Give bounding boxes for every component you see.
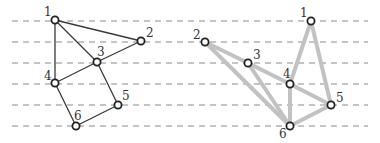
right-node-1: 1 bbox=[300, 6, 315, 25]
right-edge-4-1 bbox=[290, 21, 311, 84]
node-circle-icon bbox=[327, 101, 334, 108]
node-circle-icon bbox=[51, 16, 58, 23]
node-circle-icon bbox=[114, 101, 121, 108]
node-label: 3 bbox=[97, 45, 105, 59]
node-label: 1 bbox=[44, 5, 52, 19]
node-label: 6 bbox=[279, 127, 287, 141]
left-graph-nodes: 123456 bbox=[44, 5, 154, 130]
node-label: 6 bbox=[74, 109, 82, 123]
node-circle-icon bbox=[307, 17, 314, 24]
node-label: 4 bbox=[283, 67, 291, 81]
node-circle-icon bbox=[137, 37, 144, 44]
graph-diagram: 123456 123456 bbox=[0, 0, 380, 143]
node-label: 2 bbox=[146, 26, 154, 40]
node-circle-icon bbox=[93, 58, 100, 65]
node-label: 2 bbox=[193, 28, 201, 42]
left-edge-1-3 bbox=[55, 20, 97, 62]
right-node-2: 2 bbox=[193, 28, 209, 46]
right-edge-5-6 bbox=[290, 105, 331, 126]
node-label: 3 bbox=[253, 48, 261, 62]
node-circle-icon bbox=[286, 80, 293, 87]
left-edge-5-6 bbox=[76, 105, 118, 126]
node-circle-icon bbox=[51, 79, 58, 86]
node-label: 5 bbox=[122, 89, 130, 103]
right-edge-2-3 bbox=[205, 42, 248, 63]
left-graph-edges bbox=[55, 20, 141, 126]
left-edge-3-4 bbox=[55, 62, 97, 83]
node-circle-icon bbox=[201, 38, 208, 45]
node-label: 1 bbox=[300, 6, 308, 20]
node-label: 5 bbox=[336, 91, 344, 105]
node-circle-icon bbox=[244, 59, 251, 66]
left-node-6: 6 bbox=[72, 109, 81, 130]
right-graph-edges bbox=[205, 21, 331, 126]
node-circle-icon bbox=[286, 122, 293, 129]
right-node-6: 6 bbox=[279, 122, 294, 141]
node-label: 4 bbox=[44, 69, 52, 83]
left-edge-1-2 bbox=[55, 20, 141, 41]
node-circle-icon bbox=[72, 122, 79, 129]
left-node-5: 5 bbox=[114, 89, 129, 109]
